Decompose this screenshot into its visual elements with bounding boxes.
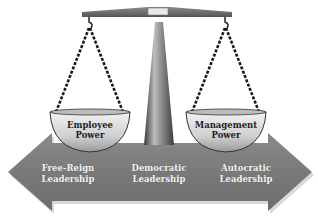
pan-label-line: Management (186, 120, 266, 130)
democratic-leadership-label: Democratic Leadership (117, 163, 201, 185)
pan-label-line: Power (186, 130, 266, 140)
right-chains (192, 28, 259, 112)
arrow-label-line: Free-Reign (28, 163, 108, 174)
scale-beam (82, 7, 232, 17)
scale-pillar (144, 22, 174, 145)
right-hook-icon (225, 17, 228, 28)
autocratic-leadership-label: Autocratic Leadership (204, 163, 288, 185)
scale-graphic (0, 0, 318, 221)
arrow-label-line: Democratic (117, 163, 201, 174)
management-power-label: Management Power (186, 120, 266, 140)
pan-label-line: Employee (52, 120, 128, 130)
leadership-scale-diagram: Employee Power Management Power Free-Rei… (0, 0, 318, 221)
pan-label-line: Power (52, 130, 128, 140)
arrow-label-line: Leadership (28, 174, 108, 185)
left-hook-icon (89, 17, 92, 28)
free-reign-leadership-label: Free-Reign Leadership (28, 163, 108, 185)
arrow-label-line: Leadership (204, 174, 288, 185)
arrow-label-line: Leadership (117, 174, 201, 185)
employee-power-label: Employee Power (52, 120, 128, 140)
left-chains (56, 28, 123, 112)
arrow-label-line: Autocratic (204, 163, 288, 174)
